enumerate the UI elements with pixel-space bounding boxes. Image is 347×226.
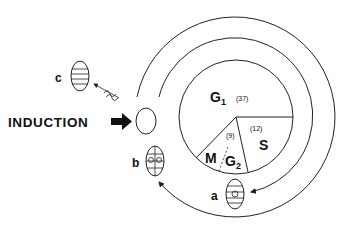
cell-b-label: b (132, 156, 139, 170)
phase-m-label: M (205, 150, 217, 166)
phase-g2-label: G2 (225, 153, 241, 171)
cell-c (71, 61, 89, 91)
induction-label: INDUCTION (8, 115, 88, 130)
cell-c-label: c (55, 71, 62, 85)
cell-b (146, 146, 164, 176)
induction-arrow-icon (111, 113, 132, 130)
induced-cell-ellipse (136, 108, 156, 134)
cell-cycle-circle (179, 60, 293, 174)
phase-g1-label: G1 (210, 89, 226, 107)
phase-g2-duration: (9) (226, 132, 235, 140)
cell-cycle-diagram: INDUCTION c b a G1 (37) (12) S (9) G2 M (0, 0, 347, 226)
cell-a (226, 179, 244, 209)
phase-g1-duration: (37) (236, 95, 248, 103)
phase-s-duration: (12) (250, 125, 262, 133)
cell-a-label: a (211, 189, 218, 203)
blocked-arrow-icon (94, 84, 119, 101)
phase-s-label: S (259, 137, 268, 153)
